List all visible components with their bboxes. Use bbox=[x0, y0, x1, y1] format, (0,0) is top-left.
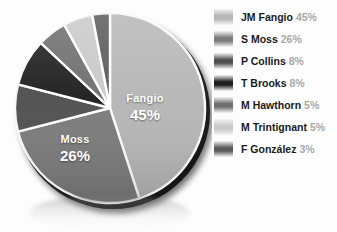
chart-legend: JM Fangio45%S Moss26%P Collins8%T Brooks… bbox=[212, 0, 337, 232]
pie-sheen-overlay bbox=[15, 13, 205, 203]
legend-swatch bbox=[214, 97, 233, 113]
legend-item-percent: 45% bbox=[296, 11, 317, 23]
legend-item-name: M Trintignant bbox=[241, 121, 307, 133]
legend-text: M Trintignant5% bbox=[241, 121, 325, 133]
legend-swatch bbox=[214, 9, 233, 25]
legend-item[interactable]: T Brooks8% bbox=[212, 72, 337, 94]
legend-swatch bbox=[214, 141, 233, 157]
legend-item-percent: 5% bbox=[304, 99, 319, 111]
legend-item[interactable]: P Collins8% bbox=[212, 50, 337, 72]
legend-text: P Collins8% bbox=[241, 55, 304, 67]
legend-text: S Moss26% bbox=[241, 33, 302, 45]
legend-text: M Hawthorn5% bbox=[241, 99, 319, 111]
legend-swatch bbox=[214, 31, 233, 47]
pie-chart-svg bbox=[0, 0, 212, 232]
legend-item-name: P Collins bbox=[241, 55, 286, 67]
legend-item[interactable]: F González3% bbox=[212, 138, 337, 160]
legend-item-name: S Moss bbox=[241, 33, 278, 45]
legend-item[interactable]: M Hawthorn5% bbox=[212, 94, 337, 116]
pie-chart-figure: Fangio 45% Moss 26% JM Fangio45%S Moss26… bbox=[0, 0, 337, 232]
legend-item-percent: 3% bbox=[299, 143, 314, 155]
legend-swatch bbox=[214, 119, 233, 135]
legend-item-name: JM Fangio bbox=[241, 11, 293, 23]
legend-item-name: M Hawthorn bbox=[241, 99, 301, 111]
legend-text: F González3% bbox=[241, 143, 315, 155]
legend-item-percent: 8% bbox=[289, 55, 304, 67]
pie-chart-area: Fangio 45% Moss 26% bbox=[0, 0, 212, 232]
legend-text: T Brooks8% bbox=[241, 77, 305, 89]
legend-item-percent: 8% bbox=[290, 77, 305, 89]
legend-swatch bbox=[214, 75, 233, 91]
legend-item-percent: 26% bbox=[281, 33, 302, 45]
legend-item[interactable]: S Moss26% bbox=[212, 28, 337, 50]
legend-swatch bbox=[214, 53, 233, 69]
legend-item[interactable]: JM Fangio45% bbox=[212, 6, 337, 28]
legend-item-name: F González bbox=[241, 143, 296, 155]
legend-text: JM Fangio45% bbox=[241, 11, 317, 23]
legend-item[interactable]: M Trintignant5% bbox=[212, 116, 337, 138]
legend-item-percent: 5% bbox=[310, 121, 325, 133]
legend-item-name: T Brooks bbox=[241, 77, 287, 89]
